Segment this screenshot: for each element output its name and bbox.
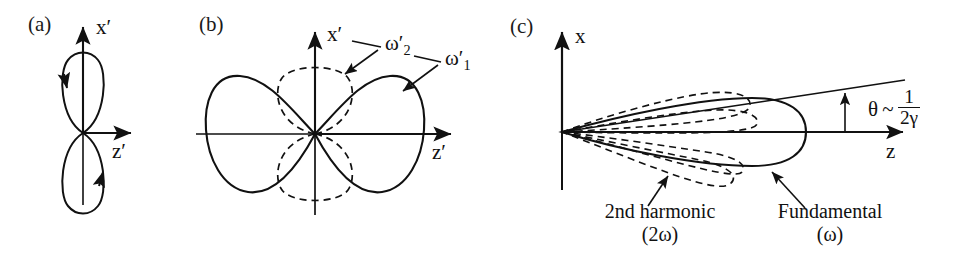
theta-symbol: θ	[868, 97, 878, 121]
angle-numerator: 1	[898, 87, 920, 108]
second-harmonic-label: 2nd harmonic (2ω)	[575, 200, 745, 246]
tilde-symbol: ~	[882, 97, 893, 121]
angle-fraction: 12γ	[898, 87, 920, 128]
angle-denominator: 2γ	[898, 108, 920, 128]
panel-c-z-axis-label: z	[886, 139, 895, 164]
radiation-pattern-figure: (a) x′ z′ (b)	[0, 0, 953, 254]
panel-c-x-axis-label: x	[575, 24, 586, 49]
second-harmonic-text: 2nd harmonic	[605, 200, 716, 222]
panel-c-opening-angle-ray	[562, 80, 905, 133]
opening-angle-label: θ ~ 12γ	[868, 87, 920, 128]
fundamental-label: Fundamental (ω)	[760, 200, 900, 246]
fundamental-freq: (ω)	[817, 223, 843, 245]
fundamental-text: Fundamental	[778, 200, 882, 222]
second-harmonic-freq: (2ω)	[642, 223, 678, 245]
